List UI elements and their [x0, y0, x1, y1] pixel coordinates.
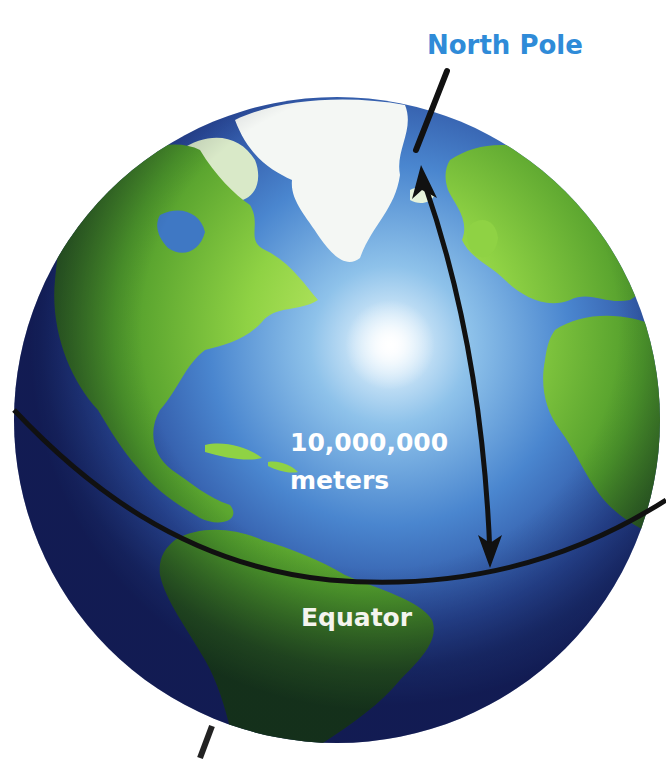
- globe-diagram: North Pole 10,000,000 meters Equator: [0, 0, 666, 761]
- south-axis-line: [200, 726, 212, 758]
- distance-value: 10,000,000: [290, 424, 448, 462]
- sun-glint: [345, 300, 435, 390]
- equator-label: Equator: [301, 603, 412, 632]
- distance-label: 10,000,000 meters: [290, 424, 448, 500]
- globe-svg: [0, 0, 666, 761]
- distance-unit: meters: [290, 462, 448, 500]
- north-pole-label: North Pole: [427, 30, 583, 60]
- globe-shading: [14, 97, 660, 743]
